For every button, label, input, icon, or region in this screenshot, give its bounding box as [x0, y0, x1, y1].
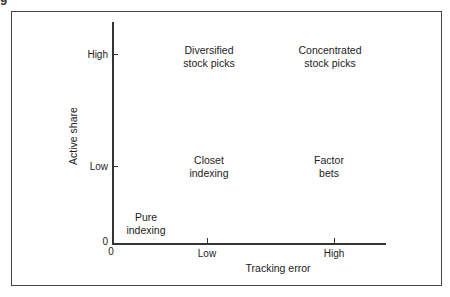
- y-tick-label-high: High: [68, 49, 108, 61]
- x-tick-low: [207, 238, 208, 244]
- quadrant-diversified-stock-picks: Diversified stock picks: [183, 44, 234, 70]
- x-tick-label-zero: 0: [91, 246, 131, 258]
- x-axis-title: Tracking error: [246, 262, 311, 274]
- figure-caption-fragment: g: [0, 0, 7, 5]
- x-tick-label-high: High: [314, 248, 354, 260]
- y-axis-line: [112, 22, 114, 244]
- y-axis-title: Active share: [67, 107, 79, 165]
- x-tick-high: [334, 238, 335, 244]
- quadrant-pure-indexing: Pure indexing: [126, 211, 165, 237]
- x-axis-line: [112, 243, 386, 245]
- quadrant-factor-bets: Factor bets: [314, 154, 344, 180]
- y-tick-low: [112, 166, 118, 167]
- quadrant-concentrated-stock-picks: Concentrated stock picks: [298, 44, 361, 70]
- x-tick-label-low: Low: [187, 248, 227, 260]
- quadrant-closet-indexing: Closet indexing: [189, 154, 228, 180]
- y-tick-high: [112, 54, 118, 55]
